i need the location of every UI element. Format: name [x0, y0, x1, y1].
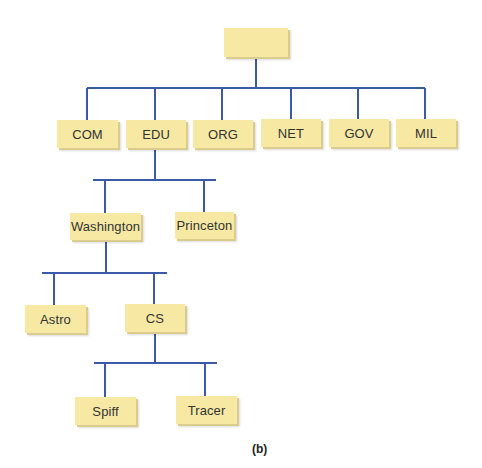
- node-astro: Astro: [25, 305, 86, 333]
- node-net: NET: [261, 119, 321, 147]
- node-tracer: Tracer: [176, 396, 237, 424]
- node-edu: EDU: [126, 120, 186, 148]
- node-org: ORG: [193, 120, 253, 148]
- node-cs: CS: [125, 304, 185, 332]
- domain-tree-diagram: COM EDU ORG NET GOV MIL Washington Princ…: [0, 0, 482, 468]
- root-node: [224, 28, 288, 57]
- node-mil: MIL: [396, 119, 456, 147]
- node-com: COM: [57, 120, 118, 148]
- node-spiff: Spiff: [75, 397, 136, 425]
- figure-caption: (b): [252, 442, 267, 456]
- node-washington: Washington: [70, 213, 141, 240]
- node-princeton: Princeton: [175, 212, 234, 239]
- node-gov: GOV: [329, 119, 389, 147]
